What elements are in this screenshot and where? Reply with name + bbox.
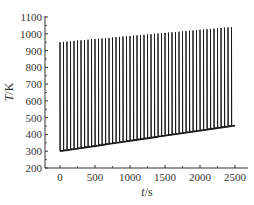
axis-labels: 2003004005006007008009001000110005001000… xyxy=(2,11,247,199)
y-tick-label: 200 xyxy=(26,162,43,174)
x-tick-label: 1500 xyxy=(154,171,177,183)
x-tick-label: 0 xyxy=(57,171,63,183)
temperature-series xyxy=(60,27,235,151)
y-tick-label: 900 xyxy=(26,45,43,57)
y-tick-label: 400 xyxy=(26,128,43,140)
y-tick-label: 800 xyxy=(26,61,43,73)
y-tick-label: 1000 xyxy=(20,28,43,40)
y-tick-label: 1100 xyxy=(20,11,42,23)
y-tick-label: 500 xyxy=(26,112,43,124)
x-axis-title: t/s xyxy=(141,185,153,199)
x-tick-label: 500 xyxy=(87,171,104,183)
y-tick-label: 600 xyxy=(26,95,43,107)
y-tick-label: 700 xyxy=(26,78,43,90)
x-tick-label: 2000 xyxy=(189,171,212,183)
temperature-time-chart: 2003004005006007008009001000110005001000… xyxy=(0,0,254,205)
x-tick-label: 1000 xyxy=(119,171,142,183)
x-tick-label: 2500 xyxy=(224,171,247,183)
y-axis-title: T/K xyxy=(2,82,16,101)
y-tick-label: 300 xyxy=(26,145,43,157)
